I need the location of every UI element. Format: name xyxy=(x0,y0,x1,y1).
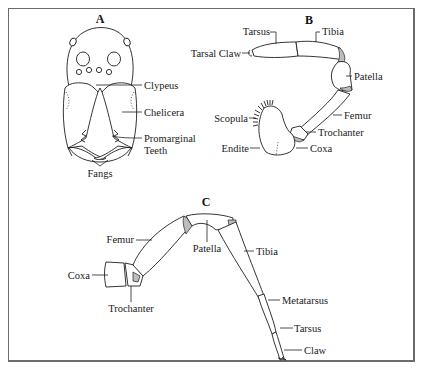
pedipalp-drawing-icon xyxy=(249,41,352,156)
spider-anatomy-diagram: A xyxy=(0,0,423,369)
label-b-femur: Femur xyxy=(344,110,372,121)
label-b-scopula: Scopula xyxy=(214,113,248,124)
label-c-trochanter: Trochanter xyxy=(108,303,154,314)
head-drawing-icon xyxy=(63,28,136,163)
label-fangs: Fangs xyxy=(87,168,112,179)
label-b-patella: Patella xyxy=(354,71,383,82)
label-clypeus: Clypeus xyxy=(144,80,178,91)
label-b-tarsus: Tarsus xyxy=(243,26,270,37)
label-c-femur: Femur xyxy=(107,234,135,245)
panel-b: B xyxy=(191,13,383,156)
label-c-tibia: Tibia xyxy=(256,246,278,257)
panel-b-title: B xyxy=(305,13,313,27)
eye-icon xyxy=(108,52,121,66)
panel-a-title: A xyxy=(96,12,105,26)
eye-icon xyxy=(77,52,90,66)
label-b-tibia: Tibia xyxy=(322,26,344,37)
panel-c: C Femur xyxy=(68,195,328,360)
label-chelicera: Chelicera xyxy=(144,107,185,118)
label-c-metatarsus: Metatarsus xyxy=(282,295,328,306)
label-b-trochanter: Trochanter xyxy=(318,127,364,138)
panel-c-title: C xyxy=(202,195,211,209)
label-c-tarsus: Tarsus xyxy=(294,323,321,334)
label-b-endite: Endite xyxy=(222,143,250,154)
label-c-patella: Patella xyxy=(193,243,222,254)
label-b-coxa: Coxa xyxy=(310,143,333,154)
panel-a: A xyxy=(63,12,195,179)
label-c-claw: Claw xyxy=(304,345,327,356)
label-c-coxa: Coxa xyxy=(68,270,91,281)
label-b-tarsal-claw: Tarsal Claw xyxy=(191,48,242,59)
label-promarginal: Promarginal xyxy=(144,133,196,144)
label-teeth: Teeth xyxy=(144,145,168,156)
